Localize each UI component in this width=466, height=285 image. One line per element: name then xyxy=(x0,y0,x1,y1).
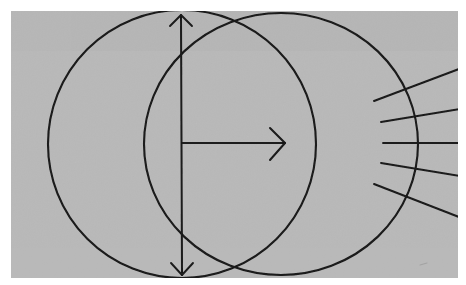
diagram-canvas xyxy=(0,0,466,285)
figure-root: Two overlapping circles with centre arro… xyxy=(0,0,466,285)
scanned-plate xyxy=(11,11,458,278)
